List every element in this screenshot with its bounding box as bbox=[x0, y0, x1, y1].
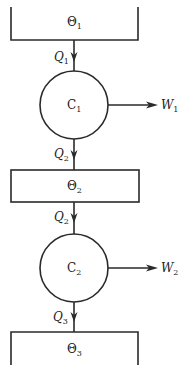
heat-flow-q3: Q3 bbox=[53, 302, 78, 332]
reservoir-theta-3: Θ3 bbox=[11, 332, 138, 365]
engine-c2: C2 bbox=[40, 234, 108, 302]
reservoir-theta-2: Θ2 bbox=[11, 170, 139, 202]
heat-flow-q1: Q1 bbox=[54, 40, 78, 71]
work-output-w1: W1 bbox=[108, 98, 178, 114]
engine-c2-label: C2 bbox=[67, 261, 81, 277]
w1-label: W1 bbox=[161, 98, 178, 114]
heat-engine-diagram: Θ1 Q1 C1 W1 Q2 Θ2 Q2 C2 bbox=[0, 0, 189, 376]
reservoir-theta-2-label: Θ2 bbox=[67, 179, 82, 195]
reservoir-theta-3-label: Θ3 bbox=[67, 342, 82, 358]
q1-label: Q1 bbox=[54, 50, 69, 66]
heat-flow-q2-out: Q2 bbox=[54, 139, 78, 170]
q2-in-label: Q2 bbox=[54, 210, 69, 226]
heat-flow-q2-in: Q2 bbox=[54, 202, 78, 234]
work-output-w2: W2 bbox=[108, 261, 178, 277]
reservoir-theta-1-label: Θ1 bbox=[67, 15, 82, 31]
engine-c1-label: C1 bbox=[67, 98, 81, 114]
w2-label: W2 bbox=[161, 261, 178, 277]
reservoir-theta-1: Θ1 bbox=[11, 7, 138, 40]
engine-c1: C1 bbox=[40, 71, 108, 139]
q3-label: Q3 bbox=[53, 310, 68, 326]
q2-out-label: Q2 bbox=[54, 147, 69, 163]
